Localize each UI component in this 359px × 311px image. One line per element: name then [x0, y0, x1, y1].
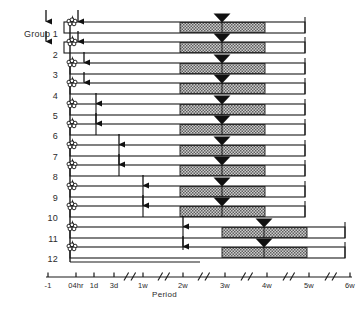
sampling-triangle-marker — [214, 178, 231, 187]
timeline-bar — [64, 14, 305, 34]
axis-tick-label: 4w — [253, 281, 281, 290]
axis-tick-label: 6w — [336, 281, 359, 290]
group-label: 9 — [0, 193, 58, 203]
timeline-bar — [70, 137, 305, 157]
left-rail-layer — [70, 22, 200, 262]
group-label: 2 — [0, 50, 58, 60]
inoculation-petal — [72, 247, 76, 251]
bars-layer — [64, 14, 345, 259]
inoculation-marker — [67, 35, 77, 46]
inoculation-marker — [67, 138, 77, 149]
sampling-triangle-marker — [214, 75, 231, 84]
axis-title: Period — [152, 290, 177, 299]
timeline-bar — [64, 34, 305, 54]
group-label: 12 — [0, 254, 58, 264]
group-label: 3 — [0, 70, 58, 80]
inoculation-petal — [68, 227, 72, 231]
sampling-triangle-marker — [256, 239, 273, 248]
inoculation-petal — [72, 227, 76, 231]
inoculation-petal — [72, 145, 76, 149]
sampling-triangle-marker — [214, 116, 231, 125]
group-label: 8 — [0, 172, 58, 182]
inoculation-petal — [72, 186, 76, 190]
inoculation-petal — [72, 42, 76, 46]
sampling-triangle-marker — [214, 34, 231, 43]
inoculation-petal — [72, 104, 76, 108]
group-label: 5 — [0, 111, 58, 121]
axis-layer — [46, 273, 352, 281]
timeline-bar — [70, 239, 345, 259]
axis-tick-label: 1w — [129, 281, 157, 290]
timeline-bar — [70, 75, 305, 95]
timeline-bar — [70, 116, 305, 136]
axis-tick-label: 3d — [100, 281, 128, 290]
inoculation-petal — [68, 206, 72, 210]
timeline-bar — [70, 219, 345, 239]
inoculation-petal — [72, 63, 76, 67]
timeline-figure: Group 123456789101112 -104hr1d3d1w2w3w4w… — [0, 0, 359, 311]
axis-tick-label: 5w — [295, 281, 323, 290]
inoculation-marker — [67, 15, 77, 26]
axis-tick-label: -1 — [34, 281, 62, 290]
timeline-bar — [70, 55, 305, 75]
sampling-triangle-marker — [214, 137, 231, 146]
sampling-triangle-marker — [256, 219, 273, 228]
inoculation-marker — [67, 76, 77, 87]
inoculation-marker — [67, 199, 77, 210]
group-label: 11 — [0, 234, 58, 244]
inoculation-marker — [67, 220, 77, 231]
group-label: 10 — [0, 213, 58, 223]
inoculation-petal — [68, 63, 72, 67]
sampling-triangle-marker — [214, 14, 231, 23]
inoculation-petal — [68, 83, 72, 87]
inoculation-petal — [68, 165, 72, 169]
timeline-bar — [70, 198, 305, 218]
inoculation-marker — [67, 179, 77, 190]
inoculation-marker — [67, 97, 77, 108]
group-label: 7 — [0, 152, 58, 162]
group-label: 6 — [0, 131, 58, 141]
inoculation-petal — [72, 124, 76, 128]
inoculation-marker — [67, 56, 77, 67]
timeline-bar — [70, 178, 305, 198]
sampling-triangle-marker — [214, 157, 231, 166]
sampling-triangle-marker — [214, 55, 231, 64]
group-label: Group 1 — [0, 29, 58, 39]
inoculation-petal — [72, 22, 76, 26]
axis-tick-label: 3w — [211, 281, 239, 290]
inoculation-petal — [68, 42, 72, 46]
inoculation-petal — [68, 124, 72, 128]
inoculation-petal — [68, 186, 72, 190]
group-label: 4 — [0, 91, 58, 101]
timeline-bar — [70, 96, 305, 116]
inoculation-marker — [67, 240, 77, 251]
inoculation-petal — [68, 104, 72, 108]
inoculation-petal — [72, 165, 76, 169]
sampling-triangle-marker — [214, 96, 231, 105]
inoculation-petal — [72, 83, 76, 87]
inoculation-petal — [68, 247, 72, 251]
inoculation-petal — [68, 22, 72, 26]
axis-tick-label: 2w — [169, 281, 197, 290]
inoculation-petal — [68, 145, 72, 149]
inoculation-marker — [67, 158, 77, 169]
inoculation-petal — [72, 206, 76, 210]
inoculation-marker — [67, 117, 77, 128]
sampling-triangle-marker — [214, 198, 231, 207]
timeline-bar — [70, 157, 305, 177]
